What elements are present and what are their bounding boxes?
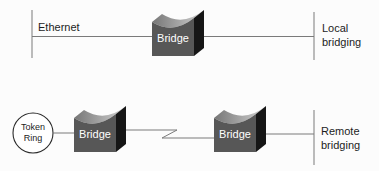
bridge-side-face — [194, 10, 204, 56]
local-bridge-label: Bridge — [157, 32, 189, 44]
remote-bridging-caption: Remote bridging — [321, 124, 360, 152]
local-bridge-icon: Bridge — [151, 9, 205, 57]
wan-link-break-line — [126, 130, 216, 138]
remote-bridging-caption-line1: Remote — [321, 124, 360, 138]
token-ring-label-line1: Token — [13, 122, 53, 133]
bridge-side-face — [256, 106, 266, 152]
bridging-diagram: Bridge Bridge — [0, 0, 379, 171]
remote-bridge-1-icon: Bridge — [73, 105, 127, 153]
local-bridging-caption-line1: Local — [322, 21, 361, 35]
token-ring-label-line2: Ring — [13, 133, 53, 144]
remote-bridge-2-label: Bridge — [219, 128, 251, 140]
local-bridging-caption: Local bridging — [322, 21, 361, 49]
remote-bridge-1-label: Bridge — [79, 128, 111, 140]
bridge-side-face — [116, 106, 126, 152]
remote-bridging-caption-line2: bridging — [321, 138, 360, 152]
local-bridging-caption-line2: bridging — [322, 35, 361, 49]
token-ring-label: Token Ring — [13, 122, 53, 143]
remote-bridge-2-icon: Bridge — [213, 105, 267, 153]
ethernet-label: Ethernet — [38, 20, 80, 34]
